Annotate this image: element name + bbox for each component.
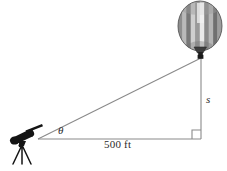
- hot-air-balloon: [178, 0, 222, 59]
- telescope-eyepiece: [10, 137, 19, 145]
- angle-theta-label: θ: [58, 125, 63, 136]
- base-distance-label: 500 ft: [104, 139, 131, 150]
- telescope-on-tripod: [10, 124, 43, 164]
- height-label: s: [206, 94, 210, 105]
- balloon-basket: [198, 55, 204, 59]
- tripod-legs: [13, 145, 31, 164]
- balloon-triangle-diagram: 500 ft s θ: [0, 0, 227, 171]
- telescope-finder-scope: [26, 124, 44, 133]
- telescope-knob: [19, 144, 23, 148]
- right-angle-marker: [192, 130, 201, 139]
